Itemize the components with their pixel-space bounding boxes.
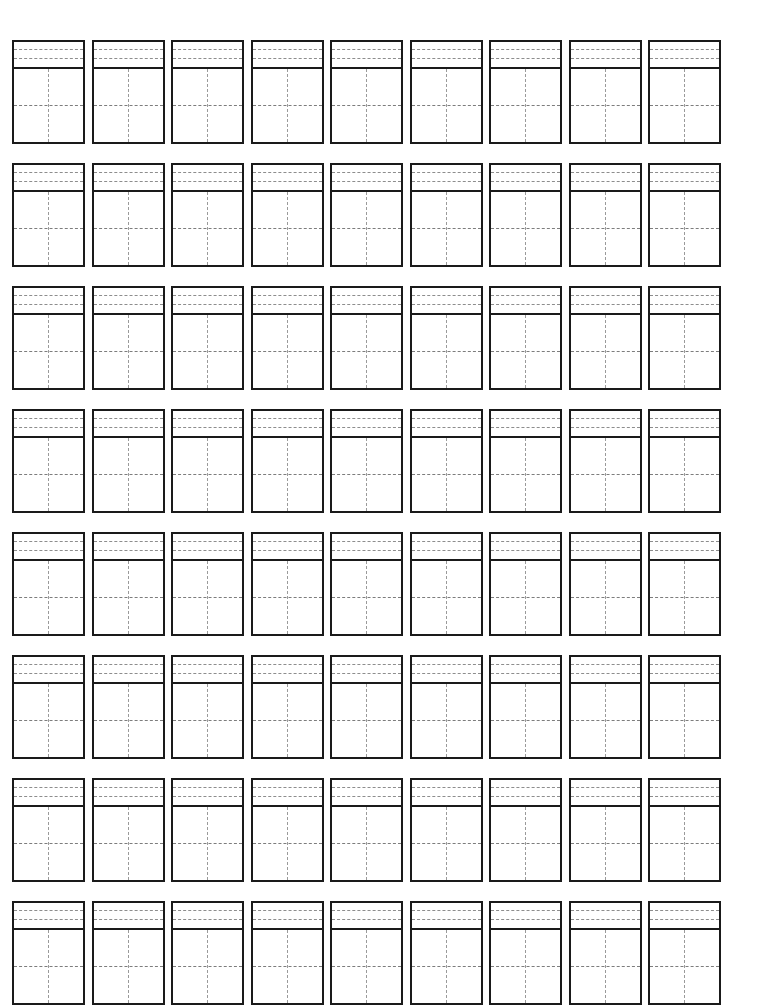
character-square[interactable] [330, 561, 403, 636]
pinyin-guide-box[interactable] [410, 901, 483, 930]
practice-cell[interactable] [171, 409, 244, 513]
practice-cell[interactable] [648, 286, 721, 390]
pinyin-guide-box[interactable] [12, 40, 85, 69]
practice-cell[interactable] [251, 286, 324, 390]
character-square[interactable] [489, 69, 562, 144]
character-square[interactable] [648, 438, 721, 513]
pinyin-guide-box[interactable] [569, 286, 642, 315]
pinyin-guide-box[interactable] [171, 655, 244, 684]
practice-cell[interactable] [330, 409, 403, 513]
practice-cell[interactable] [489, 409, 562, 513]
pinyin-guide-box[interactable] [92, 532, 165, 561]
practice-cell[interactable] [569, 532, 642, 636]
pinyin-guide-box[interactable] [92, 286, 165, 315]
pinyin-guide-box[interactable] [251, 901, 324, 930]
character-square[interactable] [330, 192, 403, 267]
pinyin-guide-box[interactable] [569, 655, 642, 684]
practice-cell[interactable] [12, 655, 85, 759]
character-square[interactable] [410, 438, 483, 513]
practice-cell[interactable] [410, 409, 483, 513]
character-square[interactable] [648, 807, 721, 882]
character-square[interactable] [569, 930, 642, 1005]
character-square[interactable] [171, 438, 244, 513]
pinyin-guide-box[interactable] [251, 163, 324, 192]
pinyin-guide-box[interactable] [251, 655, 324, 684]
pinyin-guide-box[interactable] [251, 778, 324, 807]
character-square[interactable] [92, 192, 165, 267]
character-square[interactable] [251, 69, 324, 144]
pinyin-guide-box[interactable] [489, 901, 562, 930]
pinyin-guide-box[interactable] [12, 901, 85, 930]
pinyin-guide-box[interactable] [410, 655, 483, 684]
character-square[interactable] [330, 684, 403, 759]
practice-cell[interactable] [171, 40, 244, 144]
practice-cell[interactable] [648, 655, 721, 759]
practice-cell[interactable] [569, 163, 642, 267]
character-square[interactable] [251, 684, 324, 759]
practice-cell[interactable] [92, 901, 165, 1005]
pinyin-guide-box[interactable] [489, 163, 562, 192]
practice-cell[interactable] [330, 655, 403, 759]
practice-cell[interactable] [569, 778, 642, 882]
character-square[interactable] [92, 684, 165, 759]
practice-cell[interactable] [251, 901, 324, 1005]
character-square[interactable] [12, 807, 85, 882]
character-square[interactable] [251, 315, 324, 390]
practice-cell[interactable] [92, 40, 165, 144]
character-square[interactable] [569, 561, 642, 636]
practice-cell[interactable] [489, 532, 562, 636]
character-square[interactable] [251, 438, 324, 513]
pinyin-guide-box[interactable] [648, 163, 721, 192]
pinyin-guide-box[interactable] [489, 40, 562, 69]
practice-cell[interactable] [410, 532, 483, 636]
character-square[interactable] [410, 807, 483, 882]
pinyin-guide-box[interactable] [92, 655, 165, 684]
character-square[interactable] [12, 315, 85, 390]
pinyin-guide-box[interactable] [92, 778, 165, 807]
character-square[interactable] [569, 684, 642, 759]
character-square[interactable] [251, 930, 324, 1005]
practice-cell[interactable] [171, 655, 244, 759]
pinyin-guide-box[interactable] [251, 532, 324, 561]
pinyin-guide-box[interactable] [171, 286, 244, 315]
practice-cell[interactable] [410, 778, 483, 882]
pinyin-guide-box[interactable] [171, 778, 244, 807]
pinyin-guide-box[interactable] [330, 163, 403, 192]
character-square[interactable] [569, 438, 642, 513]
pinyin-guide-box[interactable] [12, 655, 85, 684]
practice-cell[interactable] [489, 286, 562, 390]
practice-cell[interactable] [330, 778, 403, 882]
character-square[interactable] [330, 930, 403, 1005]
character-square[interactable] [171, 930, 244, 1005]
character-square[interactable] [92, 807, 165, 882]
character-square[interactable] [92, 315, 165, 390]
character-square[interactable] [171, 807, 244, 882]
practice-cell[interactable] [251, 409, 324, 513]
practice-cell[interactable] [330, 286, 403, 390]
practice-cell[interactable] [12, 409, 85, 513]
character-square[interactable] [410, 315, 483, 390]
character-square[interactable] [410, 930, 483, 1005]
pinyin-guide-box[interactable] [410, 163, 483, 192]
character-square[interactable] [12, 192, 85, 267]
pinyin-guide-box[interactable] [12, 409, 85, 438]
character-square[interactable] [171, 315, 244, 390]
practice-cell[interactable] [569, 901, 642, 1005]
practice-cell[interactable] [12, 532, 85, 636]
character-square[interactable] [12, 684, 85, 759]
pinyin-guide-box[interactable] [648, 655, 721, 684]
practice-cell[interactable] [171, 901, 244, 1005]
practice-cell[interactable] [648, 901, 721, 1005]
pinyin-guide-box[interactable] [569, 901, 642, 930]
practice-cell[interactable] [569, 40, 642, 144]
character-square[interactable] [12, 69, 85, 144]
practice-cell[interactable] [12, 778, 85, 882]
practice-cell[interactable] [251, 532, 324, 636]
pinyin-guide-box[interactable] [171, 901, 244, 930]
practice-cell[interactable] [648, 40, 721, 144]
pinyin-guide-box[interactable] [410, 40, 483, 69]
character-square[interactable] [489, 438, 562, 513]
practice-cell[interactable] [569, 286, 642, 390]
character-square[interactable] [410, 192, 483, 267]
character-square[interactable] [489, 684, 562, 759]
